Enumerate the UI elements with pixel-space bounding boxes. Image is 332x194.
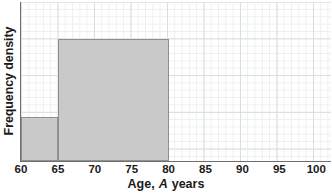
histogram-bar [58, 39, 169, 161]
x-axis-title-prefix: Age, [128, 177, 155, 191]
x-tick-label: 100 [307, 163, 326, 175]
x-tick-label: 70 [88, 163, 101, 175]
x-tick-label: 80 [162, 163, 175, 175]
x-tick-label: 75 [125, 163, 138, 175]
x-tick-label: 95 [273, 163, 286, 175]
y-axis-line [20, 2, 21, 161]
plot-area [21, 2, 331, 161]
x-axis-title-suffix: years [172, 177, 205, 191]
y-axis-title: Frequency density [2, 27, 16, 136]
histogram-bar [21, 117, 58, 161]
x-axis-line [20, 161, 331, 162]
x-axis-title: Age,Ayears [0, 177, 332, 191]
x-tick-label: 65 [51, 163, 64, 175]
histogram-figure: Frequency density 6065707580859095100 Ag… [0, 0, 332, 194]
y-axis-title-container: Frequency density [0, 0, 18, 162]
x-axis-title-variable: A [159, 177, 168, 191]
x-tick-label: 90 [236, 163, 249, 175]
x-tick-label: 60 [15, 163, 28, 175]
x-axis-tick-labels: 6065707580859095100 [21, 163, 331, 177]
x-tick-label: 85 [199, 163, 212, 175]
